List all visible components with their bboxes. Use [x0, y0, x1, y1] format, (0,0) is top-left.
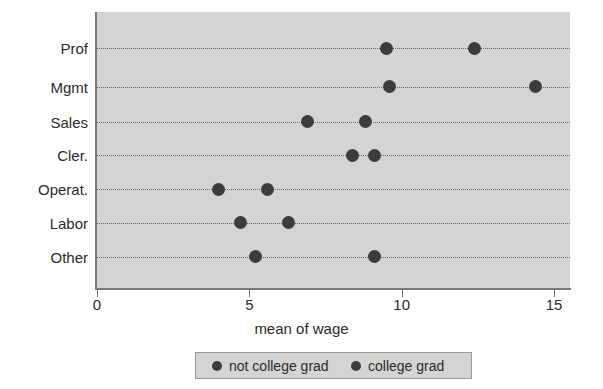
x-tick-label-15: 15: [534, 297, 574, 314]
y-tick-label-other: Other: [50, 250, 88, 265]
legend-entry-1[interactable]: not college grad: [212, 353, 329, 378]
legend-label: not college grad: [229, 359, 329, 373]
gridline-other: [96, 257, 570, 258]
y-tick-label-sales: Sales: [50, 115, 88, 130]
legend-entry-2[interactable]: college grad: [351, 353, 444, 378]
y-tick-label-labor: Labor: [50, 216, 88, 231]
x-axis-spine: [95, 288, 571, 290]
x-axis-label: mean of wage: [0, 320, 603, 337]
data-point: [249, 250, 262, 263]
data-point: [234, 216, 247, 229]
legend-marker-icon: [212, 361, 222, 371]
x-tick-label-5: 5: [229, 297, 269, 314]
legend-marker-icon: [351, 361, 361, 371]
data-point: [282, 216, 295, 229]
plot-area: [96, 12, 570, 289]
gridline-prof: [96, 48, 570, 49]
x-tick-label-10: 10: [382, 297, 422, 314]
gridline-operat: [96, 189, 570, 190]
gridline-mgmt: [96, 87, 570, 88]
y-tick-label-prof: Prof: [60, 41, 88, 56]
data-point: [368, 149, 381, 162]
data-point: [212, 183, 225, 196]
data-point: [261, 183, 274, 196]
y-tick-label-cler: Cler.: [57, 148, 88, 163]
y-tick-label-mgmt: Mgmt: [51, 80, 89, 95]
data-point: [468, 42, 481, 55]
gridline-sales: [96, 122, 570, 123]
data-point: [368, 250, 381, 263]
x-tick-label-0: 0: [77, 297, 117, 314]
data-point: [301, 115, 314, 128]
chart-legend[interactable]: not college gradcollege grad: [195, 352, 472, 379]
data-point: [380, 42, 393, 55]
gridline-cler: [96, 155, 570, 156]
legend-label: college grad: [368, 359, 444, 373]
data-point: [383, 80, 396, 93]
gridline-labor: [96, 223, 570, 224]
dot-plot-figure: ProfMgmtSalesCler.Operat.LaborOther 0510…: [0, 0, 603, 389]
data-point: [359, 115, 372, 128]
y-tick-label-operat: Operat.: [38, 182, 88, 197]
data-point: [529, 80, 542, 93]
y-axis-spine: [95, 12, 97, 290]
data-point: [346, 149, 359, 162]
